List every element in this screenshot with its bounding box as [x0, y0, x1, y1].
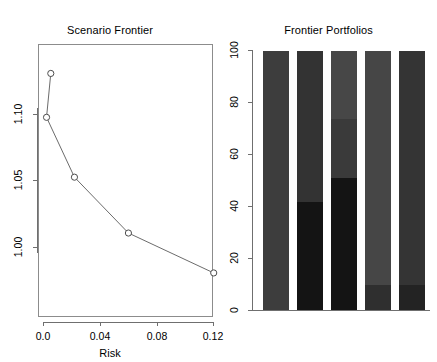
portfolio-bar-5-segment-1 [399, 285, 425, 311]
frontier-point-1[interactable] [48, 70, 54, 76]
portfolio-bar-5-segment-2 [399, 51, 425, 285]
left-x-tick-004 [100, 322, 101, 326]
frontier-portfolios-title: Frontier Portfolios [220, 24, 437, 36]
frontier-point-5[interactable] [211, 270, 217, 276]
portfolio-bar-3-segment-2 [331, 119, 357, 179]
right-y-tick-60 [248, 154, 252, 155]
right-y-tick-label-0: 0 [228, 290, 240, 330]
right-y-tick-20 [248, 258, 252, 259]
frontier-point-4[interactable] [125, 230, 131, 236]
left-y-axis-line [37, 108, 38, 253]
left-y-tick-label-105: 1.05 [12, 160, 24, 200]
frontier-point-3[interactable] [71, 174, 77, 180]
right-y-tick-label-80: 80 [228, 82, 240, 122]
scenario-frontier-panel: Scenario Frontier 1.10 1.05 1.00 0.0 0.0… [0, 0, 220, 362]
portfolio-bar-3-segment-3 [331, 51, 357, 119]
frontier-portfolios-panel: Frontier Portfolios 020406080100 [220, 0, 437, 362]
left-x-tick-label-008: 0.08 [137, 330, 177, 342]
left-x-tick-label-0: 0.0 [23, 330, 63, 342]
portfolio-bar-2-segment-2 [297, 51, 323, 202]
left-y-tick-label-100: 1.00 [12, 227, 24, 267]
left-y-tick-100 [33, 247, 37, 248]
scenario-frontier-series [0, 0, 220, 362]
left-x-tick-label-004: 0.04 [80, 330, 120, 342]
right-y-tick-0 [248, 310, 252, 311]
portfolio-bar-2-segment-1 [297, 202, 323, 311]
left-y-tick-110 [33, 114, 37, 115]
right-y-tick-label-20: 20 [228, 238, 240, 278]
figure-canvas: Scenario Frontier 1.10 1.05 1.00 0.0 0.0… [0, 0, 437, 362]
portfolio-bar-4[interactable] [365, 51, 391, 311]
right-y-tick-80 [248, 102, 252, 103]
portfolio-bar-1[interactable] [263, 51, 289, 311]
portfolio-bar-4-segment-2 [365, 51, 391, 285]
stacked-bars-area [258, 50, 430, 311]
portfolio-bar-5[interactable] [399, 51, 425, 311]
right-y-tick-100 [248, 50, 252, 51]
right-y-axis-line [252, 50, 253, 311]
portfolio-bar-2[interactable] [297, 51, 323, 311]
portfolio-bar-4-segment-1 [365, 285, 391, 311]
left-x-axis-title: Risk [0, 347, 220, 359]
frontier-point-2[interactable] [43, 114, 49, 120]
right-y-tick-label-100: 100 [228, 30, 240, 70]
left-x-tick-0 [43, 322, 44, 326]
right-y-tick-label-60: 60 [228, 134, 240, 174]
right-y-tick-label-40: 40 [228, 186, 240, 226]
left-y-tick-label-110: 1.10 [12, 94, 24, 134]
left-y-tick-105 [33, 180, 37, 181]
portfolio-bar-3-segment-1 [331, 178, 357, 311]
portfolio-bar-3[interactable] [331, 51, 357, 311]
left-x-tick-012 [213, 322, 214, 326]
left-x-tick-008 [157, 322, 158, 326]
right-y-tick-40 [248, 206, 252, 207]
left-x-axis-line [43, 322, 214, 323]
portfolio-bar-1-segment-1 [263, 51, 289, 311]
right-baseline [253, 310, 430, 311]
frontier-line [47, 73, 214, 273]
